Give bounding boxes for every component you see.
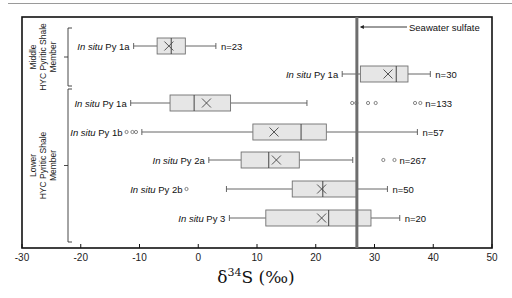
group-brackets: MiddleHYC Pyritic ShaleMemberLowerHYC Py… [28, 23, 72, 242]
x-axis: -30-20-1001020304050 [15, 244, 498, 263]
x-tick-label: 50 [486, 252, 498, 263]
group-label: MiddleHYC Pyritic ShaleMember [28, 23, 58, 91]
row-label: In situ Py 1b [70, 127, 122, 138]
box-row: In situ Py 2bn=50 [130, 181, 414, 197]
row-label: In situ Py 1a [74, 98, 127, 109]
x-tick-label: 20 [310, 252, 322, 263]
iqr-box [253, 124, 326, 140]
outlier-point [366, 101, 369, 104]
x-axis-label: δ34S (‰) [217, 266, 294, 287]
group-bracket [64, 89, 72, 242]
outlier-point [134, 130, 137, 133]
iqr-box [360, 66, 408, 82]
box-row: In situ Py 2an=267 [153, 152, 427, 168]
outlier-point [131, 130, 134, 133]
box-row: In situ Py 1an=30 [286, 66, 457, 82]
outlier-point [382, 158, 385, 161]
outlier-point [374, 101, 377, 104]
box-row: In situ Py 1an=23 [77, 38, 242, 54]
box-rows: In situ Py 1an=23In situ Py 1an=30In sit… [70, 38, 456, 226]
row-label: In situ Py 2a [153, 155, 206, 166]
outlier-point [419, 101, 422, 104]
x-tick-label: -20 [74, 252, 89, 263]
sample-count-label: n=57 [422, 127, 443, 138]
iqr-box [266, 210, 371, 226]
sample-count-label: n=30 [435, 69, 456, 80]
row-label: In situ Py 2b [130, 184, 182, 195]
x-tick-label: 0 [195, 252, 201, 263]
sample-count-label: n=133 [425, 98, 452, 109]
x-tick-label: 40 [428, 252, 440, 263]
iqr-box [241, 152, 299, 168]
outlier-point [393, 158, 396, 161]
box-row: In situ Py 1bn=57 [70, 124, 444, 140]
outlier-point [413, 101, 416, 104]
box-row: In situ Py 3n=20 [178, 210, 426, 226]
group-label: LowerHYC Pyritic ShaleMember [28, 131, 58, 199]
x-tick-label: 10 [251, 252, 263, 263]
seawater-sulfate-label: Seawater sulfate [409, 22, 480, 33]
x-tick-label: -10 [132, 252, 147, 263]
sample-count-label: n=50 [392, 184, 413, 195]
group-bracket [64, 28, 72, 86]
outlier-point [125, 130, 128, 133]
row-label: In situ Py 1a [286, 69, 339, 80]
outlier-point [185, 187, 188, 190]
sample-count-label: n=20 [405, 213, 426, 224]
sample-count-label: n=267 [399, 155, 426, 166]
boxplot-chart: MiddleHYC Pyritic ShaleMemberLowerHYC Py… [0, 0, 512, 298]
arrow-head-icon [360, 25, 364, 29]
row-label: In situ Py 1a [77, 41, 130, 52]
outlier-point [351, 101, 354, 104]
x-tick-label: 30 [369, 252, 381, 263]
x-tick-label: -30 [15, 252, 30, 263]
box-row: In situ Py 1an=133 [74, 95, 452, 111]
iqr-box [170, 95, 231, 111]
row-label: In situ Py 3 [178, 213, 225, 224]
iqr-box [292, 181, 357, 197]
sample-count-label: n=23 [221, 41, 242, 52]
